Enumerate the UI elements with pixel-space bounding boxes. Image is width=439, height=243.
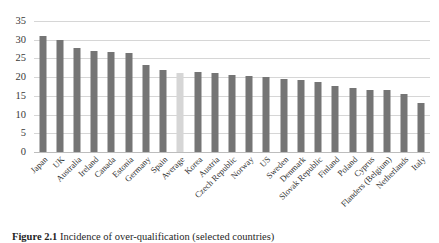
bar-slot	[258, 21, 275, 152]
y-axis: 35302520151050	[0, 21, 30, 152]
figure-container: 35302520151050 JapanUKAustraliaIrelandCa…	[0, 0, 439, 243]
bar[interactable]	[91, 51, 98, 152]
bar-slot	[344, 21, 361, 152]
bar-slot	[189, 21, 206, 152]
bar[interactable]	[383, 90, 390, 152]
bar[interactable]	[56, 40, 63, 152]
y-axis-tick-label: 35	[16, 16, 27, 27]
x-axis-label-slot: Norway	[241, 153, 258, 225]
bar[interactable]	[177, 73, 184, 152]
bar-slot	[206, 21, 223, 152]
bar[interactable]	[160, 70, 167, 152]
bar-slot	[361, 21, 378, 152]
bar-slot	[172, 21, 189, 152]
bar[interactable]	[39, 36, 46, 152]
y-axis-tick-label: 0	[21, 147, 26, 158]
bar-slot	[155, 21, 172, 152]
bar[interactable]	[142, 65, 149, 152]
y-axis-tick-label: 25	[16, 53, 27, 64]
bar-slot	[51, 21, 68, 152]
bar[interactable]	[211, 73, 218, 152]
y-axis-tick-label: 30	[16, 34, 27, 45]
x-axis-tick-label: Japan	[29, 155, 49, 175]
bar[interactable]	[418, 103, 425, 152]
bar-slot	[378, 21, 395, 152]
bar-slot	[120, 21, 137, 152]
y-axis-tick-label: 5	[21, 128, 26, 139]
bar[interactable]	[108, 52, 115, 152]
bar-slot	[34, 21, 51, 152]
bar[interactable]	[263, 77, 270, 152]
bar-slot	[292, 21, 309, 152]
figure-caption: Figure 2.1 Incidence of over-qualificati…	[12, 231, 432, 243]
bar-slot	[327, 21, 344, 152]
bar[interactable]	[280, 79, 287, 152]
bar-slot	[223, 21, 240, 152]
bar-slot	[309, 21, 326, 152]
bar-slot	[241, 21, 258, 152]
bar[interactable]	[315, 82, 322, 152]
bar[interactable]	[194, 72, 201, 152]
bar[interactable]	[246, 76, 253, 152]
bar[interactable]	[74, 48, 81, 152]
bar[interactable]	[297, 80, 304, 152]
x-axis-label-slot: Japan	[34, 153, 51, 225]
y-axis-tick-label: 15	[16, 91, 27, 102]
x-axis-label-slot: Italy	[413, 153, 430, 225]
bar-slot	[413, 21, 430, 152]
bar-slot	[275, 21, 292, 152]
bar-slot	[137, 21, 154, 152]
bar-chart: 35302520151050 JapanUKAustraliaIrelandCa…	[0, 0, 439, 160]
bar[interactable]	[125, 53, 132, 152]
x-axis: JapanUKAustraliaIrelandCanadaEstoniaGerm…	[34, 153, 430, 225]
bar-series	[34, 21, 430, 152]
bar[interactable]	[366, 90, 373, 153]
bar-slot	[86, 21, 103, 152]
bar[interactable]	[401, 94, 408, 152]
y-axis-tick-label: 20	[16, 72, 27, 83]
bar-slot	[103, 21, 120, 152]
y-axis-tick-label: 10	[16, 109, 27, 120]
figure-caption-body: Incidence of over-qualification (selecte…	[60, 231, 274, 242]
x-axis-tick-label: Italy	[410, 155, 428, 173]
figure-caption-label: Figure 2.1	[12, 231, 57, 242]
bar[interactable]	[332, 86, 339, 152]
bar-slot	[396, 21, 413, 152]
bar[interactable]	[349, 88, 356, 152]
bar-slot	[68, 21, 85, 152]
bar[interactable]	[228, 75, 235, 152]
